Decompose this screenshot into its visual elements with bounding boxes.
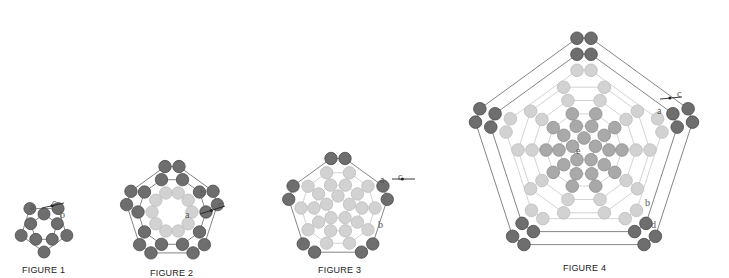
bead — [553, 144, 566, 157]
bead — [339, 179, 351, 191]
figure-4-caption: FIGURE 4 — [563, 263, 606, 273]
bead — [631, 105, 644, 118]
bead — [160, 187, 172, 199]
bead — [302, 224, 314, 236]
bead — [172, 225, 184, 237]
bead — [682, 102, 695, 115]
bead — [155, 238, 167, 250]
bead — [176, 173, 188, 185]
bead — [619, 212, 632, 225]
bead — [603, 144, 616, 157]
bead — [355, 246, 367, 258]
bead — [362, 224, 374, 236]
bead — [585, 32, 598, 45]
bead — [585, 64, 598, 77]
label-b: b — [200, 187, 205, 198]
bead — [38, 208, 50, 220]
bead — [656, 126, 669, 139]
bead — [589, 140, 602, 153]
bead — [566, 180, 579, 193]
bead — [38, 246, 50, 258]
bead — [146, 206, 158, 218]
bead — [585, 48, 598, 61]
bead — [557, 206, 570, 219]
bead — [302, 180, 314, 192]
bead — [312, 216, 324, 228]
bead — [343, 167, 355, 179]
bead — [527, 225, 540, 238]
bead — [585, 167, 598, 180]
bead — [133, 238, 145, 250]
bead — [145, 247, 157, 259]
bead — [339, 212, 351, 224]
bead — [598, 129, 611, 142]
bead — [628, 225, 641, 238]
label-a: a — [657, 105, 662, 116]
label-b: b — [645, 197, 650, 208]
figure-3-caption: FIGURE 3 — [318, 265, 361, 275]
figure-1-caption: FIGURE 1 — [22, 265, 65, 275]
bead — [187, 247, 199, 259]
bead — [557, 81, 570, 94]
bead — [381, 193, 393, 205]
bead — [325, 152, 337, 164]
bead — [598, 81, 611, 94]
bead — [667, 107, 680, 120]
bead — [362, 180, 374, 192]
bead — [589, 180, 602, 193]
bead — [138, 226, 150, 238]
bead — [504, 112, 517, 125]
bead — [578, 132, 591, 145]
bead — [526, 144, 539, 157]
bead — [620, 174, 633, 187]
bead — [351, 216, 363, 228]
bead — [571, 64, 584, 77]
bead — [484, 121, 497, 134]
bead — [125, 185, 137, 197]
bead — [198, 238, 210, 250]
bead — [562, 193, 575, 206]
bead — [537, 212, 550, 225]
bead — [608, 121, 621, 134]
bead — [474, 102, 487, 115]
bead — [324, 225, 336, 237]
label-a: a — [380, 174, 385, 185]
bead — [570, 167, 583, 180]
bead — [557, 129, 570, 142]
label-a: a — [30, 201, 35, 212]
bead — [500, 126, 513, 139]
bead — [570, 120, 583, 133]
bead — [571, 32, 584, 45]
bead — [594, 94, 607, 107]
bead — [320, 198, 332, 210]
bead — [339, 152, 351, 164]
bead — [61, 229, 73, 241]
bead — [343, 198, 355, 210]
bead — [630, 204, 643, 217]
bead — [30, 233, 42, 245]
bead — [594, 193, 607, 206]
bead — [518, 238, 531, 251]
bead — [524, 105, 537, 118]
bead — [182, 194, 194, 206]
bead — [295, 202, 307, 214]
bead — [297, 238, 309, 250]
bead — [589, 108, 602, 121]
label-a: a — [185, 209, 190, 220]
bead — [671, 121, 684, 134]
label-e: e — [576, 145, 581, 156]
bead — [536, 174, 549, 187]
bead — [320, 237, 332, 249]
bead — [616, 144, 629, 157]
bead — [132, 206, 144, 218]
bead — [356, 202, 368, 214]
bead — [343, 237, 355, 249]
label-b: b — [378, 219, 383, 230]
label-d: d — [651, 219, 656, 230]
bead-diagram: abcabcabcabcde — [0, 0, 729, 278]
bead — [320, 167, 332, 179]
bead — [524, 182, 537, 195]
bead — [150, 218, 162, 230]
bead — [631, 182, 644, 195]
label-b: b — [60, 209, 65, 220]
